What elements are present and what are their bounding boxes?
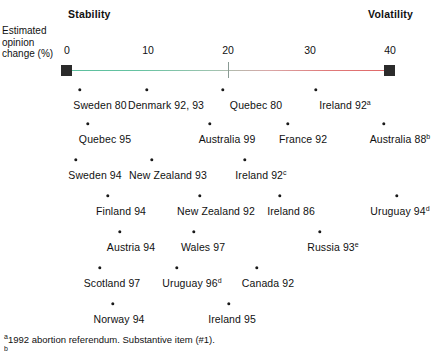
scatter-point <box>86 122 89 125</box>
scatter-point-label: Ireland 86 <box>267 205 315 217</box>
footnote-ref-d: d <box>218 277 222 284</box>
axis-tick-label-30: 30 <box>304 44 316 56</box>
footnote-text-a: 1992 abortion referendum. Substantive it… <box>8 334 215 345</box>
scatter-point <box>98 266 101 269</box>
pole-label-stability: Stability <box>68 8 111 20</box>
scatter-point <box>227 302 230 305</box>
axis-tick-label-40: 40 <box>384 44 396 56</box>
scatter-point-label: Sweden 94 <box>68 169 121 181</box>
axis-caption: Estimated opinion change (%) <box>2 25 64 60</box>
footnote-marker-b: b <box>4 346 8 351</box>
axis-caption-line-1: Estimated <box>2 25 64 37</box>
scatter-point-label: New Zealand 92 <box>177 205 255 217</box>
scatter-point-label: Uruguay 94d <box>370 205 429 217</box>
footnotes: a1992 abortion referendum. Substantive i… <box>4 334 439 351</box>
scatter-point <box>192 230 195 233</box>
scatter-point <box>118 230 121 233</box>
scatter-point-label: Sweden 80 <box>73 99 126 111</box>
pole-label-volatility: Volatility <box>368 8 413 20</box>
scatter-point <box>278 194 281 197</box>
footnote-ref-a: a <box>367 99 371 106</box>
axis-endcap-left <box>61 65 72 76</box>
scatter-point <box>286 122 289 125</box>
scatter-point-label: Quebec 80 <box>230 99 282 111</box>
scatter-point-label: Australia 88b <box>370 133 431 145</box>
axis-endcap-right <box>384 65 395 76</box>
scatter-point <box>150 158 153 161</box>
scatter-point <box>395 194 398 197</box>
scatter-point <box>111 302 114 305</box>
scatter-point <box>382 122 385 125</box>
figure-container: Stability Volatility Estimated opinion c… <box>0 0 443 358</box>
scatter-point <box>243 158 246 161</box>
scatter-point-label: New Zealand 93 <box>129 169 207 181</box>
scatter-point <box>221 88 224 91</box>
scatter-point-label: Quebec 95 <box>79 133 131 145</box>
footnote-ref-d: d <box>426 205 430 212</box>
scatter-point <box>145 88 148 91</box>
scatter-point-label: Norway 94 <box>93 313 144 325</box>
scatter-point <box>74 158 77 161</box>
axis-tick-label-0: 0 <box>64 44 70 56</box>
footnote-ref-e: e <box>355 241 359 248</box>
axis-caption-line-3: change (%) <box>2 48 64 60</box>
scatter-point <box>106 194 109 197</box>
footnote-ref-b: b <box>426 133 430 140</box>
scatter-point-label: France 92 <box>279 133 327 145</box>
scatter-point-label: Uruguay 96d <box>162 277 221 289</box>
scatter-point <box>255 266 258 269</box>
footnote-a: a1992 abortion referendum. Substantive i… <box>4 334 439 346</box>
axis-tick-label-10: 10 <box>142 44 154 56</box>
scatter-point-label: Russia 93e <box>307 241 359 253</box>
scatter-point-label: Austria 94 <box>107 241 155 253</box>
footnote-b-clipped: b <box>4 346 439 351</box>
scatter-point-label: Scotland 97 <box>84 277 141 289</box>
scatter-point <box>208 122 211 125</box>
scatter-point-label: Canada 92 <box>242 277 294 289</box>
axis-tick-midpoint <box>228 62 229 78</box>
scatter-point <box>175 266 178 269</box>
scatter-point <box>318 230 321 233</box>
scatter-point <box>314 88 317 91</box>
scatter-point-label: Ireland 92c <box>235 169 286 181</box>
axis-caption-line-2: opinion <box>2 37 64 49</box>
scatter-point-label: Denmark 92, 93 <box>128 99 204 111</box>
scatter-point <box>78 88 81 91</box>
axis-tick-label-20: 20 <box>222 44 234 56</box>
scatter-point-label: Finland 94 <box>96 205 146 217</box>
footnote-ref-c: c <box>283 169 287 176</box>
scatter-point-label: Ireland 92a <box>319 99 371 111</box>
scatter-point-label: Ireland 95 <box>208 313 256 325</box>
scatter-point <box>198 194 201 197</box>
scatter-point-label: Wales 97 <box>181 241 225 253</box>
scatter-point-label: Australia 99 <box>199 133 256 145</box>
